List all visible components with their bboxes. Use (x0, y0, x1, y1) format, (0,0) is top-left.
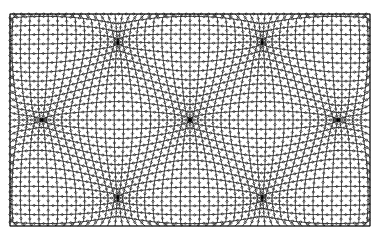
warped-lattice-artwork (0, 0, 383, 238)
lattice-beads (9, 13, 371, 226)
